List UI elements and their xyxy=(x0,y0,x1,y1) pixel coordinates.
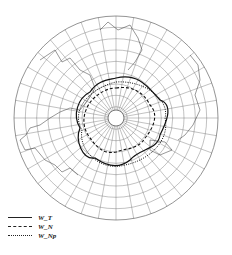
dotted-line-icon xyxy=(8,235,32,236)
solid-line-icon xyxy=(8,217,32,218)
legend-label: W_T xyxy=(38,214,52,222)
legend-item-w-t: W_T xyxy=(8,213,78,222)
legend-label: W_Np xyxy=(38,232,56,240)
pole-hole xyxy=(108,110,124,126)
legend: W_T W_N W_Np xyxy=(8,213,78,240)
legend-label: W_N xyxy=(38,223,53,231)
legend-item-w-n: W_N xyxy=(8,222,78,231)
legend-item-w-np: W_Np xyxy=(8,231,78,240)
dashed-line-icon xyxy=(8,226,32,227)
